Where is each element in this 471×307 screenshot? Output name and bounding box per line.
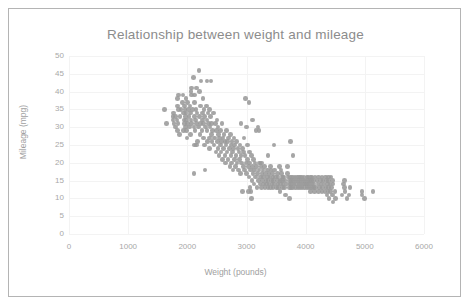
x-axis-tick-label: 6000 (404, 242, 444, 251)
data-point (266, 153, 271, 158)
data-point (250, 118, 255, 123)
x-axis-tick-label: 1000 (108, 242, 148, 251)
data-point (209, 79, 214, 84)
x-axis-title: Weight (pounds) (9, 267, 462, 277)
x-axis-tick-label: 0 (49, 242, 89, 251)
data-point (192, 171, 197, 176)
data-point (331, 200, 336, 205)
y-axis-title: Mileage (mpg) (18, 82, 28, 182)
data-point (268, 164, 273, 169)
data-point (164, 121, 169, 126)
data-point (205, 79, 210, 84)
data-point (197, 89, 202, 94)
data-point (203, 168, 208, 173)
x-axis-tick-label: 3000 (227, 242, 267, 251)
data-point (249, 196, 254, 201)
data-point (331, 182, 336, 187)
y-axis-tick-label: 40 (36, 87, 64, 96)
data-point (175, 96, 180, 101)
data-point (347, 193, 352, 198)
data-point (249, 189, 254, 194)
data-point (189, 86, 194, 91)
gridline-vertical (424, 56, 425, 234)
gridline-vertical (128, 56, 129, 234)
x-axis-tick-label: 5000 (345, 242, 385, 251)
data-point (362, 196, 367, 201)
data-point (177, 132, 182, 137)
data-point (342, 178, 347, 183)
scatter-chart: Relationship between weight and mileage … (9, 9, 462, 298)
data-point (259, 161, 264, 166)
data-point (240, 189, 245, 194)
x-axis-tick-label: 2000 (167, 242, 207, 251)
data-point (193, 128, 198, 133)
data-point (371, 189, 376, 194)
y-axis-tick-label: 35 (36, 104, 64, 113)
data-point (188, 132, 193, 137)
gridline-vertical (69, 56, 70, 234)
data-point (257, 128, 262, 133)
chart-title: Relationship between weight and mileage (9, 27, 462, 42)
y-axis-tick-label: 50 (36, 51, 64, 60)
x-axis-tick-label: 4000 (286, 242, 326, 251)
data-point (288, 139, 293, 144)
data-point (247, 100, 252, 105)
data-point (333, 189, 338, 194)
data-point (220, 121, 225, 126)
data-point (215, 118, 220, 123)
data-point (239, 121, 244, 126)
y-axis-tick-label: 45 (36, 69, 64, 78)
data-point (287, 196, 292, 201)
data-point (201, 96, 206, 101)
data-point (179, 107, 184, 112)
gridline-vertical (306, 56, 307, 234)
data-point (200, 128, 205, 133)
y-axis-tick-label: 20 (36, 158, 64, 167)
y-axis-tick-label: 30 (36, 122, 64, 131)
chart-border: Relationship between weight and mileage … (8, 8, 461, 297)
data-point (211, 111, 216, 116)
gridline-horizontal (69, 234, 424, 235)
data-point (162, 107, 167, 112)
y-axis-tick-label: 15 (36, 176, 64, 185)
y-axis-tick-label: 0 (36, 229, 64, 238)
data-point (244, 125, 249, 130)
data-point (176, 121, 181, 126)
data-point (360, 189, 365, 194)
y-axis-tick-label: 25 (36, 140, 64, 149)
data-point (272, 143, 277, 148)
data-point (192, 93, 197, 98)
data-point (285, 164, 290, 169)
data-point (192, 100, 197, 105)
data-point (238, 171, 243, 176)
data-point (348, 185, 353, 190)
data-point (176, 93, 181, 98)
data-point (199, 79, 204, 84)
y-axis-tick-label: 5 (36, 211, 64, 220)
data-point (197, 68, 202, 73)
data-point (245, 143, 250, 148)
data-point (191, 75, 196, 80)
gridline-vertical (187, 56, 188, 234)
plot-area (69, 56, 424, 234)
data-point (291, 153, 296, 158)
y-axis-tick-label: 10 (36, 193, 64, 202)
data-point (207, 146, 212, 151)
gridline-vertical (365, 56, 366, 234)
